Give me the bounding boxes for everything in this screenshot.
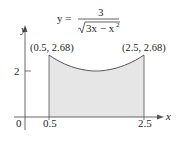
chart: y x 2 0 0.5 2.5 (0.5, 2.68) (2.5, 2.68) … [0, 0, 180, 145]
x-axis-label: x [165, 110, 171, 122]
x-tick-label-0: 0 [16, 117, 22, 129]
x-tick-label-0.5: 0.5 [43, 117, 57, 129]
shaded-area [49, 55, 144, 117]
x-axis-arrow-icon [157, 115, 164, 120]
y-tick-label-2: 2 [14, 65, 20, 77]
equation-exponent: 2 [116, 21, 120, 29]
annotation-right: (2.5, 2.68) [122, 42, 166, 54]
y-axis-label: y [20, 23, 26, 35]
equation-lhs: y = [57, 12, 71, 24]
x-tick-label-2.5: 2.5 [138, 117, 152, 129]
equation: y = 3 3x − x 2 [57, 6, 120, 34]
equation-numerator: 3 [98, 6, 104, 18]
annotation-left: (0.5, 2.68) [30, 42, 74, 54]
equation-radicand: 3x − x [86, 22, 115, 34]
